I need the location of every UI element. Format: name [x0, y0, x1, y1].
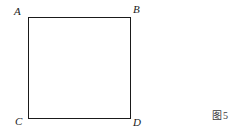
vertex-label-d: D	[133, 117, 141, 128]
figure-caption-word: 图	[212, 110, 222, 121]
vertex-label-c: C	[15, 116, 22, 127]
vertex-label-b: B	[133, 4, 140, 15]
figure-caption: 图5	[212, 110, 228, 122]
figure-caption-number: 5	[223, 110, 228, 121]
square-shape	[28, 17, 131, 119]
vertex-label-a: A	[14, 6, 21, 17]
figure-container: A B C D 图5	[0, 0, 250, 135]
